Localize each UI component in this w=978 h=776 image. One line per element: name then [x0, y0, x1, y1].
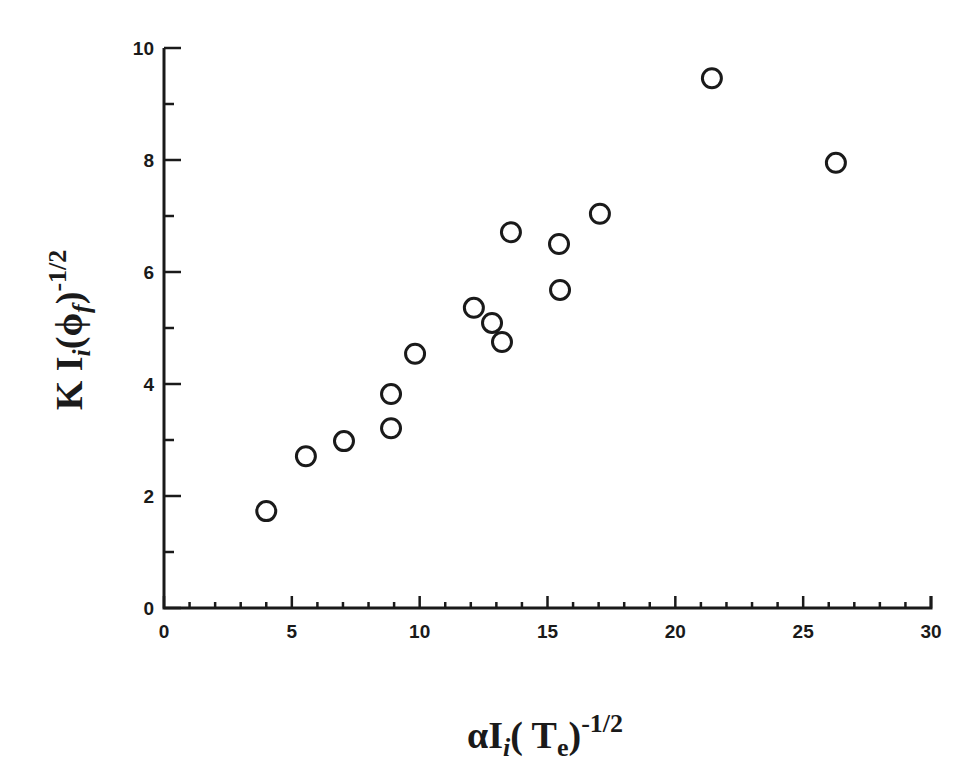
data-point-marker — [590, 204, 609, 223]
data-markers — [257, 69, 846, 521]
y-tick-label: 8 — [143, 150, 154, 171]
y-tick-label: 4 — [143, 374, 154, 395]
y-tick-label: 0 — [143, 598, 154, 619]
x-title-prefix: αI — [467, 714, 503, 756]
y-title-superscript: -1/2 — [43, 250, 72, 292]
x-axis: 051015202530 — [159, 48, 942, 642]
data-point-marker — [551, 280, 570, 299]
x-tick-label: 10 — [409, 621, 430, 642]
y-tick-label: 10 — [133, 38, 154, 59]
data-point-marker — [550, 235, 569, 254]
data-point-marker — [334, 432, 353, 451]
x-axis-title: αIi( Te)-1/2 — [467, 709, 623, 762]
data-point-marker — [702, 69, 721, 88]
data-point-marker — [406, 344, 425, 363]
axis-frame — [164, 48, 931, 608]
data-point-marker — [296, 447, 315, 466]
y-tick-label: 2 — [143, 486, 154, 507]
x-title-close: ) — [569, 714, 582, 757]
x-title-sub-e: e — [557, 733, 569, 762]
data-point-marker — [382, 385, 401, 404]
x-tick-label: 5 — [287, 621, 298, 642]
data-point-marker — [483, 313, 502, 332]
x-tick-label: 20 — [665, 621, 686, 642]
x-tick-label: 15 — [537, 621, 559, 642]
x-tick-label: 25 — [793, 621, 815, 642]
x-title-open: ( T — [510, 714, 557, 757]
data-point-marker — [257, 502, 276, 521]
x-tick-label: 0 — [159, 621, 170, 642]
y-axis: 0246810 — [133, 38, 181, 619]
scatter-chart: 0246810 051015202530 K Ii(ϕf)-1/2 αIi( T… — [0, 0, 978, 776]
y-title-prefix: K I — [48, 356, 90, 410]
x-title-superscript: -1/2 — [581, 709, 623, 738]
x-tick-label: 30 — [920, 621, 941, 642]
y-axis-title: K Ii(ϕf)-1/2 — [43, 250, 96, 411]
data-point-marker — [826, 153, 845, 172]
data-point-marker — [501, 223, 520, 242]
data-point-marker — [492, 333, 511, 352]
data-point-marker — [382, 419, 401, 438]
data-point-marker — [464, 298, 483, 317]
y-title-close: ) — [48, 292, 91, 305]
y-title-open: (ϕ — [48, 313, 91, 349]
y-tick-label: 6 — [143, 262, 154, 283]
